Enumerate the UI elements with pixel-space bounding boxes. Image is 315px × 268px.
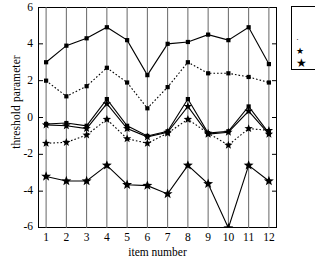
legend-item-0: · [296,33,315,45]
y-tick-label: -2 [11,148,33,160]
data-point-square [85,84,89,88]
x-tick-label: 6 [139,232,155,244]
y-axis-title: threshold parameter [10,0,22,212]
data-point-square [166,85,170,89]
data-point-square [206,71,210,75]
data-point-square [145,106,149,110]
y-tick-label: 6 [11,2,33,14]
x-tick-label: 3 [79,232,95,244]
chart-svg [38,7,277,228]
x-axis-title: item number [38,246,277,258]
legend: · ★ ★ [291,6,315,70]
data-point-square [267,62,271,66]
large-star-icon: ★ [296,57,307,69]
y-tick-label: 4 [11,38,33,50]
x-tick-label: 4 [99,232,115,244]
data-point-square [247,25,251,29]
y-tick-label: 2 [11,75,33,87]
data-point-square [64,94,68,98]
series-line-2 [46,99,269,136]
x-tick-label: 2 [58,232,74,244]
small-star-icon: ★ [296,47,304,56]
y-tick-label: -6 [11,221,33,233]
series-line-0 [46,27,269,75]
data-point-square [186,97,190,101]
x-tick-label: 11 [241,232,257,244]
data-point-square [105,25,109,29]
data-point-square [44,60,48,64]
x-tick-label: 7 [160,232,176,244]
data-point-square [125,80,129,84]
data-point-square [125,38,129,42]
y-tick-label: 0 [11,112,33,124]
data-point-square [145,73,149,77]
legend-item-2: ★ [296,57,315,69]
dot-icon: · [296,35,299,44]
data-point-square [226,71,230,75]
plot-area [38,7,277,228]
data-point-square [267,80,271,84]
x-tick-label: 12 [261,232,277,244]
data-point-square [105,66,109,70]
data-point-star [223,223,233,228]
plot-frame [39,8,277,228]
data-point-square [247,75,251,79]
series-line-3 [46,104,269,137]
data-point-square [64,44,68,48]
data-point-square [44,79,48,83]
data-point-square [85,36,89,40]
series-line-5 [46,165,269,228]
data-point-square [186,40,190,44]
x-tick-label: 10 [220,232,236,244]
y-tick-label: -4 [11,185,33,197]
x-tick-label: 8 [180,232,196,244]
data-point-square [166,42,170,46]
x-tick-label: 5 [119,232,135,244]
data-point-square [186,60,190,64]
data-point-square [206,33,210,37]
x-tick-label: 9 [200,232,216,244]
chart-root: threshold parameter 6 4 2 0 -2 -4 -6 123… [0,0,315,268]
x-tick-label: 1 [38,232,54,244]
data-point-square [226,38,230,42]
series-line-1 [46,62,269,108]
